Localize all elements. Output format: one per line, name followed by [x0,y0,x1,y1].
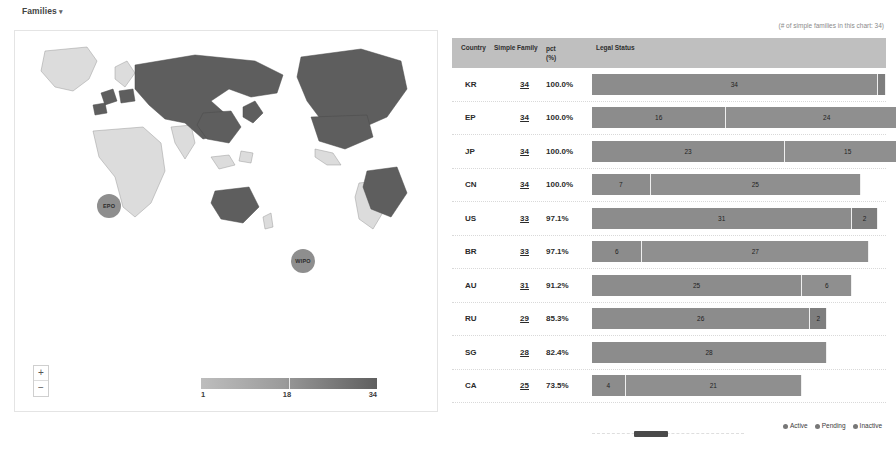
cell-simple-family-link[interactable]: 34 [494,180,546,189]
cell-simple-family-link[interactable]: 33 [494,214,546,223]
table-row[interactable]: JP34100.0%2315 [452,135,886,169]
bar-segment-inactive[interactable] [878,74,886,95]
cell-simple-family-link[interactable]: 28 [494,348,546,357]
world-map[interactable] [15,31,439,361]
bar-segment-label: 31 [718,215,725,222]
table-row[interactable]: US3397.1%312 [452,202,886,236]
column-header-simple-family[interactable]: Simple Family [494,44,546,68]
bar-segment-active[interactable]: 25 [592,275,802,296]
bar-segment-active[interactable]: 26 [592,308,810,329]
cell-simple-family-link[interactable]: 34 [494,147,546,156]
cell-pct: 91.2% [546,281,592,290]
cell-pct: 73.5% [546,381,592,390]
bar-segment-pending[interactable]: 25 [651,174,861,195]
cell-country: CA [452,381,494,390]
table-row[interactable]: BR3397.1%627 [452,236,886,270]
status-legend: ActivePendingInactive [783,422,882,429]
bar-segment-label: 7 [619,181,623,188]
column-header-pct[interactable]: pct (%) [546,44,592,68]
table-row[interactable]: RU2985.3%262 [452,303,886,337]
families-dashboard: Families▾ (# of simple families in this … [0,0,896,454]
column-header-country[interactable]: Country [452,44,494,68]
bar-segment-label: 23 [684,148,691,155]
bar-segment-inactive[interactable]: 2 [852,208,877,229]
column-header-pct-unit: (%) [546,54,556,61]
map-zoom-controls[interactable]: + − [33,365,49,397]
world-map-panel[interactable]: EPO WIPO + − 1 18 34 [14,30,438,412]
cell-pct: 100.0% [546,80,592,89]
bar-segment-pending[interactable]: 6 [802,275,852,296]
chevron-down-icon: ▾ [59,8,63,15]
families-dropdown[interactable]: Families▾ [22,6,63,16]
bar-segment-active[interactable]: 7 [592,174,651,195]
cell-legal-status-bar[interactable]: 256 [592,275,886,296]
cell-country: AU [452,281,494,290]
cell-legal-status-bar[interactable]: 2315 [592,141,886,162]
bar-segment-pending[interactable]: 24 [726,107,896,128]
cell-simple-family-link[interactable]: 29 [494,314,546,323]
horizontal-scrollbar[interactable] [592,433,744,438]
cell-legal-status-bar[interactable]: 312 [592,208,886,229]
table-row[interactable]: KR34100.0%34 [452,68,886,102]
bar-segment-label: 24 [823,114,830,121]
cell-simple-family-link[interactable]: 31 [494,281,546,290]
cell-legal-status-bar[interactable]: 28 [592,342,886,363]
cell-pct: 100.0% [546,180,592,189]
cell-simple-family-link[interactable]: 25 [494,381,546,390]
cell-legal-status-bar[interactable]: 627 [592,241,886,262]
bar-segment-active[interactable]: 31 [592,208,852,229]
legend-item[interactable]: Inactive [853,422,882,429]
legend-item[interactable]: Active [783,422,808,429]
cell-country: US [452,214,494,223]
cell-country: KR [452,80,494,89]
scale-mid-label: 18 [283,390,291,399]
cell-simple-family-link[interactable]: 33 [494,247,546,256]
legend-dot-icon [783,424,788,429]
table-row[interactable]: AU3191.2%256 [452,269,886,303]
bar-segment-label: 26 [697,315,704,322]
legend-item[interactable]: Pending [815,422,846,429]
cell-simple-family-link[interactable]: 34 [494,80,546,89]
table-row[interactable]: CA2573.5%421 [452,370,886,404]
map-bubble-epo[interactable]: EPO [97,194,121,218]
map-bubble-wipo-label: WIPO [295,258,310,264]
bar-segment-active[interactable]: 23 [592,141,785,162]
cell-legal-status-bar[interactable]: 1624 [592,107,886,128]
bar-segment-active[interactable]: 6 [592,241,642,262]
scrollbar-thumb[interactable] [634,431,668,437]
cell-country: CN [452,180,494,189]
bar-segment-label: 6 [615,248,619,255]
scale-max-label: 34 [369,390,377,399]
bar-segment-label: 4 [606,382,610,389]
bar-segment-active[interactable]: 4 [592,375,626,396]
bar-segment-pending[interactable]: 21 [626,375,802,396]
table-row[interactable]: EP34100.0%1624 [452,102,886,136]
cell-legal-status-bar[interactable]: 421 [592,375,886,396]
bar-segment-label: 15 [844,148,851,155]
bar-segment-inactive[interactable]: 2 [810,308,827,329]
bar-segment-active[interactable]: 34 [592,74,878,95]
legend-label: Active [790,422,808,429]
column-header-legal-status[interactable]: Legal Status [592,44,886,68]
map-bubble-epo-label: EPO [103,203,115,209]
table-body: KR34100.0%34EP34100.0%1624JP34100.0%2315… [452,68,886,403]
bar-segment-active[interactable]: 16 [592,107,726,128]
zoom-in-button[interactable]: + [34,366,48,381]
bar-segment-active[interactable]: 28 [592,342,827,363]
legend-dot-icon [815,424,820,429]
cell-pct: 97.1% [546,214,592,223]
cell-legal-status-bar[interactable]: 725 [592,174,886,195]
cell-legal-status-bar[interactable]: 262 [592,308,886,329]
cell-simple-family-link[interactable]: 34 [494,113,546,122]
table-row[interactable]: SG2882.4%28 [452,336,886,370]
cell-legal-status-bar[interactable]: 34 [592,74,886,95]
map-bubble-wipo[interactable]: WIPO [291,249,315,273]
table-header-row: Country Simple Family pct (%) Legal Stat… [452,38,886,68]
table-row[interactable]: CN34100.0%725 [452,169,886,203]
cell-country: RU [452,314,494,323]
bar-segment-label: 2 [863,215,867,222]
cell-country: BR [452,247,494,256]
bar-segment-pending[interactable]: 15 [785,141,896,162]
bar-segment-pending[interactable]: 27 [642,241,869,262]
zoom-out-button[interactable]: − [34,381,48,396]
